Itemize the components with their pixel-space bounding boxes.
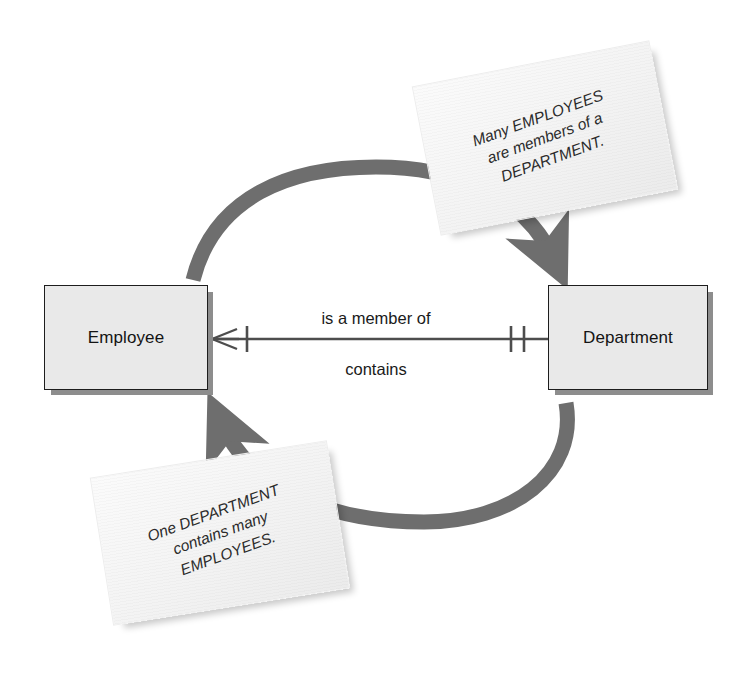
relationship-connector <box>212 326 548 352</box>
entity-label-department: Department <box>583 328 673 348</box>
sticky-note-bottom-text: One DEPARTMENT contains many EMPLOYEES. <box>144 479 297 587</box>
relationship-label-is-a-member-of: is a member of <box>0 309 752 328</box>
relationship-label-contains: contains <box>0 360 752 379</box>
er-diagram-canvas: Employee Department is a member of conta… <box>0 0 752 682</box>
entity-label-employee: Employee <box>88 328 164 348</box>
crows-foot-many-employee-end <box>212 329 239 349</box>
sticky-note-top-text: Many EMPLOYEES are members of a DEPARTME… <box>469 84 620 191</box>
